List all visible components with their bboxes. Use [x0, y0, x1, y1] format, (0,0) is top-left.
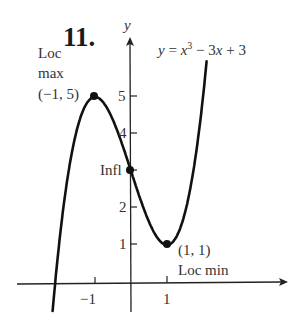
y-tick-label-5: 5	[118, 89, 126, 104]
eq-plus-3: + 3	[222, 42, 245, 58]
loc-max-label-line2: max	[38, 66, 64, 81]
loc-max-point	[90, 92, 98, 100]
x-axis	[17, 282, 282, 284]
loc-min-label: Loc min	[178, 263, 228, 278]
loc-min-coords: (1, 1)	[178, 243, 211, 258]
loc-min-point	[163, 240, 171, 248]
y-tick-label-2: 2	[119, 200, 127, 215]
loc-max-coords: (−1, 5)	[38, 87, 79, 102]
inflection-point	[126, 166, 134, 174]
loc-max-label-line1: Loc	[38, 46, 61, 61]
y-axis-label: y	[124, 18, 131, 33]
eq-y: y	[158, 42, 165, 58]
eq-equals: =	[165, 42, 181, 58]
y-axis	[130, 44, 131, 312]
y-tick-label-1: 1	[119, 237, 127, 252]
equation-label: y = x3 − 3x + 3	[158, 40, 246, 59]
y-tick-label-4: 4	[119, 126, 127, 141]
infl-label: Infl	[100, 163, 122, 178]
eq-minus-3: − 3	[192, 42, 215, 58]
x-tick-label--1: −1	[80, 292, 96, 307]
x-tick-label-1: 1	[163, 292, 171, 307]
